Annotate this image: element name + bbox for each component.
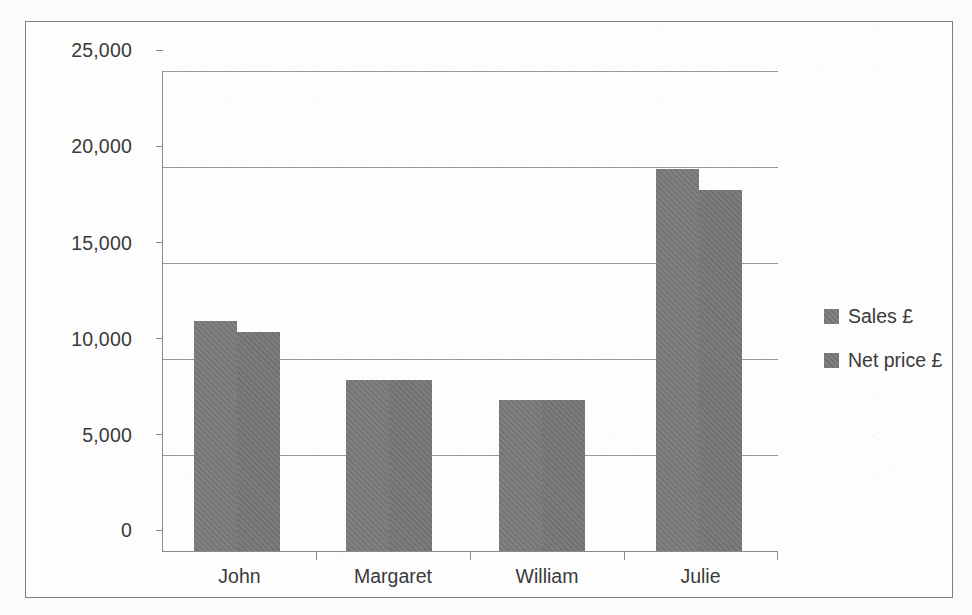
bar-john-sales[interactable] (194, 321, 237, 551)
y-axis-tick-5000 (156, 434, 163, 435)
bar-william-net-price[interactable] (542, 400, 585, 551)
legend-item-sales[interactable]: Sales £ (824, 294, 972, 338)
plot-area (163, 71, 778, 551)
gridline-20000 (163, 167, 778, 168)
y-axis-label-5000: 5,000 (36, 424, 132, 447)
bar-margaret-net-price[interactable] (389, 380, 432, 551)
y-axis-tick-10000 (156, 338, 163, 339)
bar-margaret-sales[interactable] (346, 380, 389, 551)
y-axis-label-15000: 15,000 (36, 232, 132, 255)
y-axis-label-0: 0 (36, 519, 132, 542)
category-separator-2 (470, 551, 471, 560)
category-separator-4 (777, 551, 778, 560)
legend-label-net-price: Net price £ (848, 349, 942, 372)
legend-label-sales: Sales £ (848, 305, 913, 328)
y-axis-label-25000: 25,000 (36, 39, 132, 62)
y-axis-tick-15000 (156, 242, 163, 243)
chart-legend: Sales £ Net price £ (824, 294, 972, 382)
legend-swatch-sales-icon (824, 309, 839, 324)
bar-julie-net-price[interactable] (699, 190, 742, 551)
x-axis-label-william: William (470, 565, 624, 588)
x-axis-label-margaret: Margaret (316, 565, 470, 588)
bar-julie-sales[interactable] (656, 169, 699, 551)
y-axis-tick-0 (156, 530, 163, 531)
y-axis-label-20000: 20,000 (36, 135, 132, 158)
bar-john-net-price[interactable] (237, 332, 280, 551)
x-axis-label-julie: Julie (624, 565, 777, 588)
y-axis-label-10000: 10,000 (36, 328, 132, 351)
bar-william-sales[interactable] (499, 400, 542, 551)
legend-swatch-net-price-icon (824, 353, 839, 368)
chart-frame: 25,000 20,000 15,000 10,000 5,000 0 (25, 21, 953, 598)
x-axis-label-john: John (163, 565, 316, 588)
y-axis-tick-20000 (156, 146, 163, 147)
category-separator-3 (624, 551, 625, 560)
gridline-25000 (163, 71, 778, 72)
y-axis-tick-25000 (156, 50, 163, 51)
category-separator-1 (316, 551, 317, 560)
legend-item-net-price[interactable]: Net price £ (824, 338, 972, 382)
